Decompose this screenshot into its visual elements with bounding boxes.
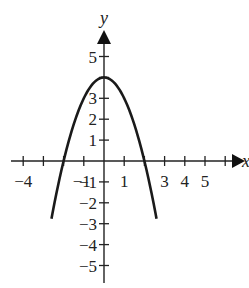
y-tick-label: −1: [79, 173, 97, 192]
x-tick-label: 1: [120, 172, 129, 191]
x-tick-label: 3: [160, 172, 169, 191]
graph: −4−113455321−1−2−3−4−5 x y: [0, 0, 249, 288]
y-tick-label: 3: [89, 89, 98, 108]
y-tick-label: −4: [79, 236, 98, 255]
y-axis-arrow-icon: [97, 30, 111, 44]
y-tick-label: 5: [89, 48, 98, 67]
y-tick-label: −5: [79, 257, 97, 276]
y-tick-label: 2: [89, 110, 98, 129]
y-tick-label: −3: [79, 215, 97, 234]
y-tick-label: −2: [79, 194, 97, 213]
x-tick-label: 4: [181, 172, 190, 191]
x-tick-label: 5: [201, 172, 210, 191]
x-axis-label: x: [241, 151, 249, 171]
axes: [11, 30, 245, 283]
x-tick-label: −4: [14, 172, 33, 191]
y-axis-label: y: [98, 8, 108, 28]
y-tick-label: 1: [89, 131, 98, 150]
